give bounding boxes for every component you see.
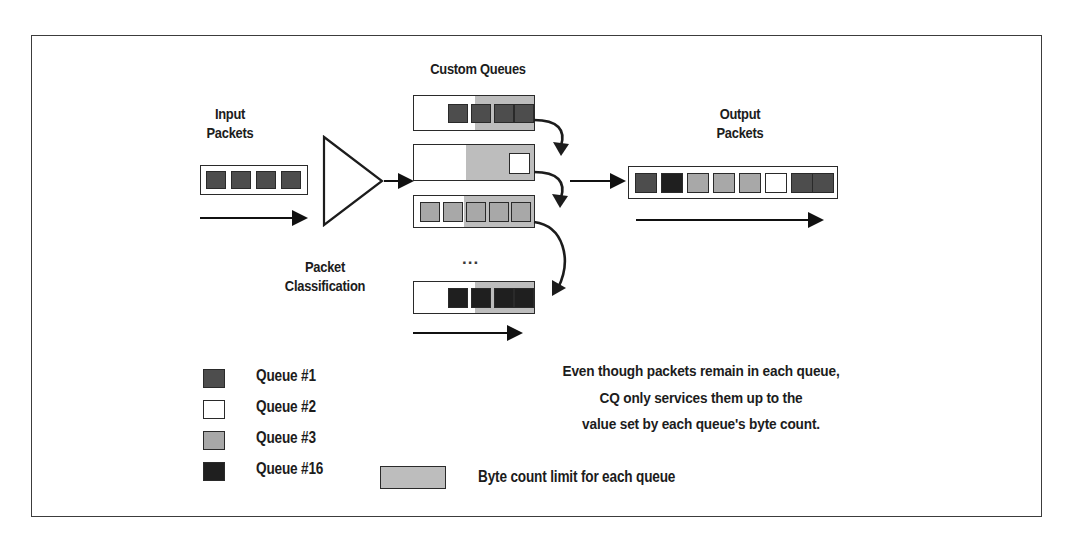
explanatory-note: Even though packets remain in each queue…: [516, 358, 886, 438]
note-line-2: CQ only services them up to the: [538, 385, 864, 412]
packet-classifier-triangle: [322, 135, 384, 227]
queue-1-packet: [471, 104, 491, 123]
output-packet: [661, 173, 683, 193]
queues-to-output-arrow: [570, 173, 626, 189]
service-arc-1: [534, 120, 562, 146]
queue-16-packet: [494, 288, 514, 308]
input-flow-arrow: [200, 210, 308, 226]
input-packet: [281, 171, 301, 189]
output-packet: [765, 173, 787, 193]
output-packets-label-line2: Packets: [688, 124, 791, 143]
queue-row-16: [413, 281, 535, 314]
diagram-canvas: Input Packets Packet Classification Cust…: [0, 0, 1065, 545]
queue-1-packet: [448, 104, 468, 123]
queue-row-3: [413, 195, 535, 228]
input-packets-row: [200, 165, 308, 195]
input-packets-label-line2: Packets: [178, 124, 281, 143]
queue-2-packet: [509, 153, 530, 174]
input-packet: [256, 171, 276, 189]
queue-3-packet: [489, 202, 509, 222]
packet-classification-label-line1: Packet: [273, 258, 376, 277]
legend-swatch-queue-3: [203, 431, 225, 450]
round-robin-service-arrows: [528, 100, 590, 330]
output-flow-arrow: [636, 212, 824, 228]
legend-label-queue-2: Queue #2: [256, 398, 316, 416]
service-arc-2: [534, 172, 562, 198]
output-packet: [635, 173, 657, 193]
service-arrowhead-2: [552, 194, 568, 208]
legend-swatch-byte-count: [380, 466, 446, 489]
output-packet: [791, 173, 813, 193]
output-packet: [812, 173, 834, 193]
input-packet: [206, 171, 226, 189]
packet-classification-label-line2: Classification: [273, 277, 376, 296]
note-line-3: value set by each queue's byte count.: [538, 411, 864, 438]
queue-row-2: [413, 144, 535, 181]
legend-label-queue-3: Queue #3: [256, 429, 316, 447]
queue-3-packet: [466, 202, 486, 222]
classifier-to-queues-arrow: [384, 173, 414, 189]
input-packet: [231, 171, 251, 189]
service-arrowhead-1: [553, 142, 569, 156]
legend-label-queue-16: Queue #16: [256, 460, 323, 478]
output-packets-label-line1: Output: [688, 105, 791, 124]
queue-16-packet: [471, 288, 491, 308]
queue-16-flow-arrow: [413, 325, 523, 341]
legend-swatch-queue-1: [203, 369, 225, 388]
legend-swatch-queue-16: [203, 462, 225, 481]
legend-label-byte-count: Byte count limit for each queue: [478, 468, 675, 486]
legend-swatch-queue-2: [203, 400, 225, 419]
queues-ellipsis: ...: [462, 249, 479, 269]
queue-16-packet: [448, 288, 468, 308]
service-arrowhead-3: [552, 280, 566, 296]
queue-1-packet: [494, 104, 514, 123]
input-packets-label-line1: Input: [178, 105, 281, 124]
custom-queues-label: Custom Queues: [418, 60, 538, 79]
queue-3-packet: [420, 202, 440, 222]
service-arc-3: [534, 222, 565, 288]
legend-label-queue-1: Queue #1: [256, 367, 316, 385]
output-packet: [739, 173, 761, 193]
queue-3-packet: [443, 202, 463, 222]
output-packet: [713, 173, 735, 193]
note-line-1: Even though packets remain in each queue…: [538, 358, 864, 385]
output-packet: [687, 173, 709, 193]
queue-row-1: [413, 95, 535, 131]
output-packets-row: [628, 166, 838, 199]
